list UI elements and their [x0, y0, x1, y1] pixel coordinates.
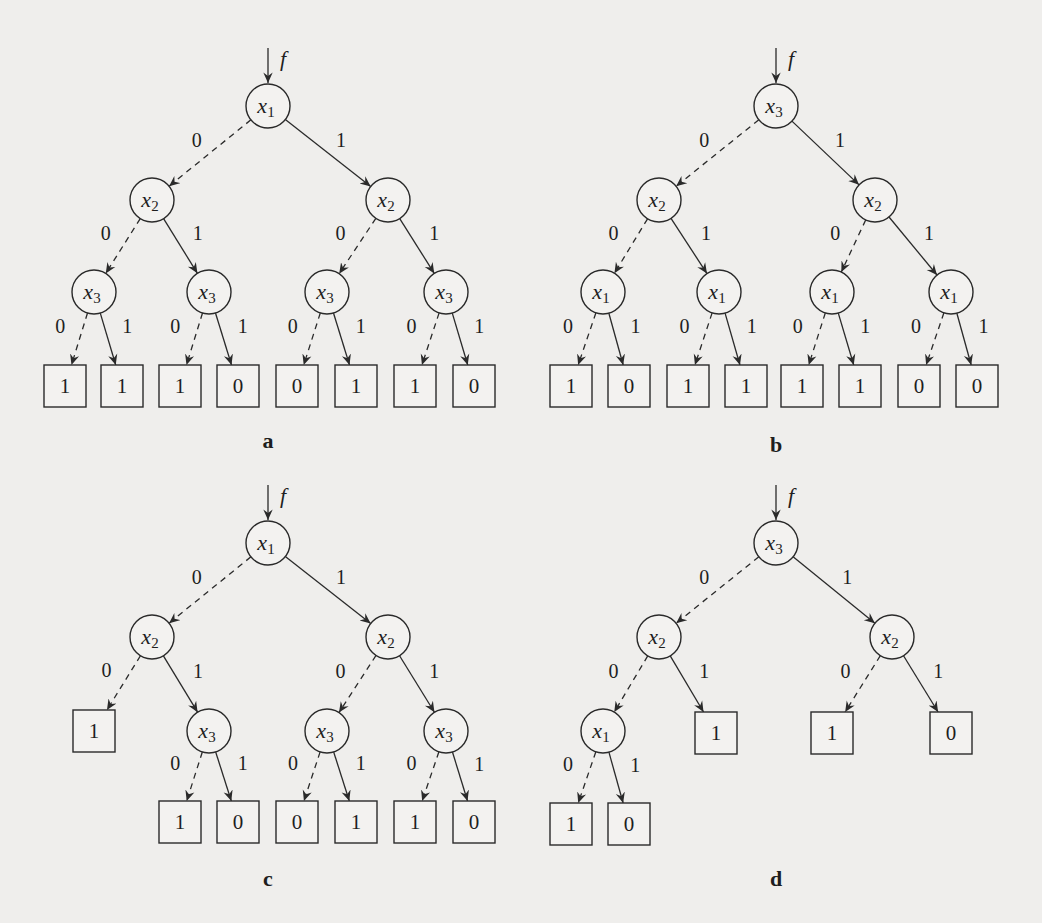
edge-label: 0: [101, 659, 111, 681]
variable-node-x2: x2: [130, 615, 174, 659]
terminal-value: 1: [741, 374, 752, 398]
low-edge: [926, 313, 944, 365]
terminal-node-1: 1: [394, 801, 436, 843]
edge-label: 0: [609, 660, 619, 682]
terminal-value: 1: [351, 810, 362, 834]
edge-label: 1: [429, 660, 439, 682]
edge-label: 1: [356, 752, 366, 774]
edge-label: 0: [192, 129, 202, 151]
variable-node-x2: x2: [366, 615, 410, 659]
terminal-value: 1: [60, 374, 71, 398]
low-edge: [186, 313, 202, 365]
edge-label: 0: [911, 315, 921, 337]
terminal-node-1: 1: [811, 712, 853, 754]
terminal-node-1: 1: [695, 712, 737, 754]
low-edge: [614, 656, 647, 712]
function-label: f: [788, 46, 797, 71]
low-edge: [71, 313, 87, 365]
high-edge: [452, 313, 467, 365]
high-edge: [285, 557, 370, 624]
terminal-value: 0: [292, 374, 303, 398]
terminal-node-0: 0: [930, 712, 972, 754]
edge-label: 1: [835, 129, 845, 151]
high-edge: [792, 121, 859, 185]
variable-node-x3: x3: [424, 709, 468, 753]
edge-label: 1: [701, 222, 711, 244]
low-edge: [809, 313, 826, 365]
high-edge: [216, 752, 232, 801]
terminal-value: 0: [233, 374, 244, 398]
variable-node-x2: x2: [853, 178, 897, 222]
low-edge: [676, 120, 759, 186]
terminal-value: 0: [914, 374, 925, 398]
high-edge: [609, 313, 623, 365]
variable-node-x3: x3: [305, 709, 349, 753]
terminal-value: 1: [410, 374, 421, 398]
terminal-node-0: 0: [956, 365, 998, 407]
low-edge: [422, 752, 439, 801]
low-edge: [304, 752, 320, 801]
terminal-node-0: 0: [608, 365, 650, 407]
terminal-node-1: 1: [101, 365, 143, 407]
edge-label: 1: [356, 315, 366, 337]
terminal-value: 1: [827, 721, 838, 745]
edge-label: 1: [924, 222, 934, 244]
panel-caption: c: [263, 866, 273, 891]
panel-caption: d: [770, 866, 782, 891]
edge-label: 0: [335, 222, 345, 244]
edge-label: 1: [630, 315, 640, 337]
variable-node-x3: x3: [187, 270, 231, 314]
diagram-panel-c: f010101010101x1x2x2x3x3x31100110c: [73, 483, 495, 891]
edge-label: 0: [55, 315, 65, 337]
terminal-node-0: 0: [608, 803, 650, 845]
edge-label: 0: [830, 222, 840, 244]
low-edge: [422, 313, 439, 365]
high-edge: [334, 752, 350, 801]
terminal-node-1: 1: [159, 365, 201, 407]
variable-node-x1: x1: [697, 270, 741, 314]
terminal-value: 0: [292, 810, 303, 834]
edge-label: 1: [238, 752, 248, 774]
edge-label: 0: [288, 752, 298, 774]
edge-label: 0: [192, 566, 202, 588]
high-edge: [333, 313, 349, 365]
diagram-panel-d: f01010101x3x2x2x111010d: [550, 483, 972, 891]
terminal-value: 0: [972, 374, 983, 398]
terminal-node-1: 1: [335, 365, 377, 407]
terminal-value: 0: [624, 374, 635, 398]
low-edge: [169, 120, 251, 186]
terminal-node-1: 1: [335, 801, 377, 843]
high-edge: [609, 752, 623, 803]
edge-label: 0: [609, 222, 619, 244]
edge-label: 1: [193, 660, 203, 682]
high-edge: [725, 313, 740, 365]
variable-node-x3: x3: [305, 270, 349, 314]
low-edge: [169, 557, 251, 623]
terminal-node-1: 1: [394, 365, 436, 407]
edge-label: 1: [747, 315, 757, 337]
variable-node-x2: x2: [637, 178, 681, 222]
edge-label: 1: [860, 315, 870, 337]
edge-label: 0: [699, 566, 709, 588]
terminal-node-1: 1: [550, 365, 592, 407]
high-edge: [285, 120, 370, 187]
terminal-value: 1: [351, 374, 362, 398]
low-edge: [578, 313, 596, 365]
terminal-value: 0: [946, 721, 957, 745]
edge-label: 1: [336, 129, 346, 151]
variable-node-x1: x1: [810, 270, 854, 314]
terminal-node-0: 0: [276, 365, 318, 407]
edge-label: 1: [630, 754, 640, 776]
terminal-value: 0: [624, 812, 635, 836]
edge-label: 1: [336, 566, 346, 588]
variable-node-x3: x3: [424, 270, 468, 314]
variable-node-x1: x1: [246, 84, 290, 128]
variable-node-x3: x3: [754, 84, 798, 128]
variable-node-x3: x3: [754, 521, 798, 565]
edge-label: 1: [193, 222, 203, 244]
terminal-value: 1: [797, 374, 808, 398]
high-edge: [100, 313, 115, 365]
variable-node-x1: x1: [581, 270, 625, 314]
terminal-node-1: 1: [667, 365, 709, 407]
variable-node-x2: x2: [366, 178, 410, 222]
